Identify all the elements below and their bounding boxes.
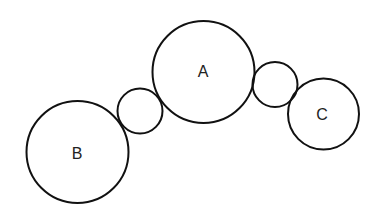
circle-idler-left xyxy=(118,89,163,134)
label-a: A xyxy=(198,63,209,80)
gear-diagram: A B C xyxy=(0,0,377,223)
label-c: C xyxy=(316,106,328,123)
label-b: B xyxy=(72,145,83,162)
